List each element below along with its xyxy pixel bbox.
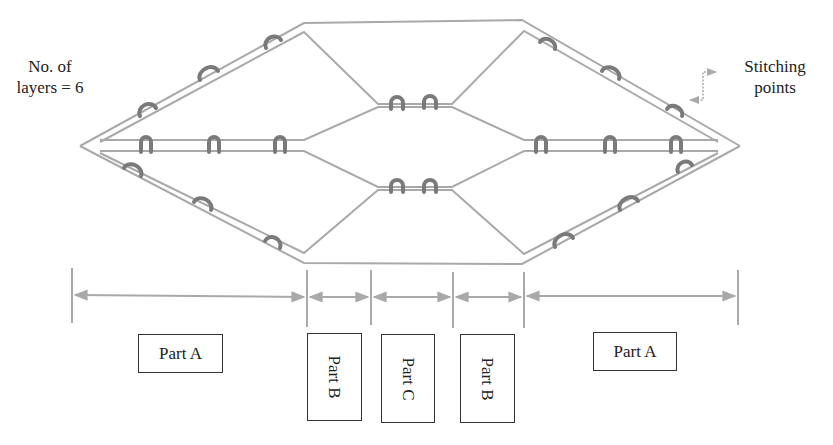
stitching-points-leader: [690, 72, 716, 100]
part-a-right-box: Part A: [593, 332, 677, 371]
part-b-right-box: Part B: [460, 334, 515, 423]
stitch-label-line-2: points: [731, 77, 819, 98]
layer-1-top-outer: [80, 20, 740, 146]
dimension-line: [72, 268, 738, 328]
layers-label-line-1: No. of: [4, 56, 96, 77]
layer-2-top-inner: [100, 31, 718, 142]
layers-label: No. of layers = 6: [4, 56, 96, 98]
layer-3-mid-upper: [100, 107, 718, 140]
part-c-label: Part C: [398, 357, 418, 400]
layer-6-bottom-outer: [80, 146, 740, 264]
layers-label-line-2: layers = 6: [4, 77, 96, 98]
stitches: [124, 36, 692, 248]
stitch-label-line-1: Stitching: [731, 56, 819, 77]
part-b-left-box: Part B: [307, 333, 362, 421]
span-part-a-left: [75, 295, 304, 297]
layer-4-mid-lower: [100, 151, 718, 187]
part-a-left-box: Part A: [138, 334, 223, 373]
part-a-left-label: Part A: [159, 344, 202, 364]
part-a-right-label: Part A: [614, 342, 657, 362]
stitching-points-label: Stitching points: [731, 56, 819, 98]
part-b-left-label: Part B: [324, 356, 344, 399]
part-c-box: Part C: [381, 334, 435, 423]
fabric-layers: [80, 20, 740, 264]
part-b-right-label: Part B: [477, 357, 497, 400]
